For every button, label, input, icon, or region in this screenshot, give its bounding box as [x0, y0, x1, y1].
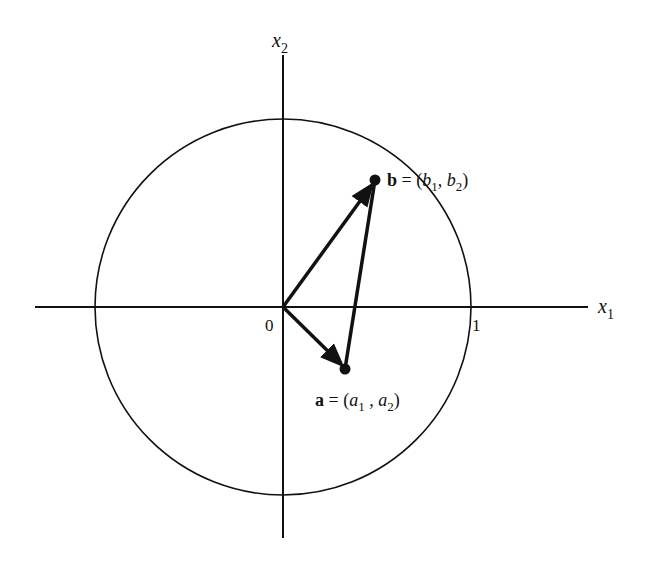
- segment-a-to-b: [345, 180, 375, 369]
- origin-label: 0: [265, 316, 274, 335]
- point-b-label: b = (b1, b2): [387, 170, 468, 194]
- point-b: [370, 175, 381, 186]
- x1-axis-label: x1: [597, 295, 614, 322]
- point-a: [340, 364, 351, 375]
- x2-axis-label: x2: [271, 29, 288, 56]
- unit-circle-diagram: x2 x1 0 1 b = (b1, b2) a = (a1 , a2): [0, 0, 645, 564]
- vector-a-arrow: [283, 307, 341, 364]
- unit-tick-label: 1: [472, 316, 481, 335]
- point-a-label: a = (a1 , a2): [315, 390, 400, 414]
